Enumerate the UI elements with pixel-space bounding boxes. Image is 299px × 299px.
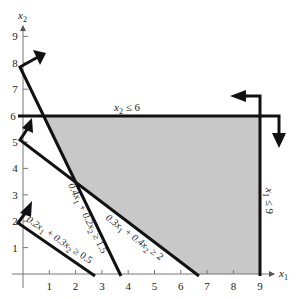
x-axis-label: x1 xyxy=(278,267,288,282)
svg-text:2: 2 xyxy=(73,280,79,292)
svg-text:6: 6 xyxy=(178,280,184,292)
arrow-down-icon xyxy=(272,133,286,148)
svg-text:9: 9 xyxy=(257,280,263,292)
lp-feasible-region-diagram: 1 2 3 4 5 6 7 8 9 1 2 3 4 5 6 7 8 9 x1 x… xyxy=(0,0,299,299)
svg-text:3: 3 xyxy=(12,189,18,201)
svg-text:2: 2 xyxy=(12,215,18,227)
svg-text:4: 4 xyxy=(12,162,18,174)
svg-text:4: 4 xyxy=(125,280,131,292)
y-axis-label: x2 xyxy=(17,9,27,24)
svg-text:7: 7 xyxy=(204,280,210,292)
svg-text:1: 1 xyxy=(12,242,18,254)
svg-text:3: 3 xyxy=(99,280,105,292)
svg-text:6: 6 xyxy=(10,110,16,122)
svg-text:8: 8 xyxy=(12,57,18,69)
svg-text:8: 8 xyxy=(231,280,237,292)
label-x2-le-6: x2 ≤ 6 xyxy=(113,101,140,116)
x-tick-labels: 1 2 3 4 5 6 7 8 9 xyxy=(47,280,264,292)
svg-text:7: 7 xyxy=(12,83,18,95)
svg-text:1: 1 xyxy=(47,280,53,292)
label-x1-le-9: x1 ≤ 9 xyxy=(261,187,276,214)
svg-text:5: 5 xyxy=(12,136,18,148)
svg-text:9: 9 xyxy=(12,30,18,42)
y-tick-labels: 1 2 3 4 5 6 7 8 9 xyxy=(10,30,18,253)
svg-text:5: 5 xyxy=(152,280,158,292)
arrow-left-icon xyxy=(230,90,246,102)
